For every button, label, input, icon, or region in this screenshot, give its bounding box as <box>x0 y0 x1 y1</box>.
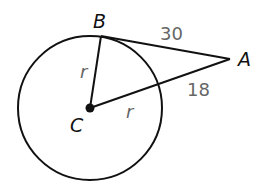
center-point <box>86 104 95 113</box>
label-radius-cb: r <box>80 61 89 82</box>
label-radius-cd: r <box>126 101 135 122</box>
label-ba-length: 30 <box>160 23 183 44</box>
label-c: C <box>70 114 84 136</box>
circle-tangent-diagram: B A C r r 30 18 <box>0 0 267 192</box>
label-b: B <box>93 10 106 32</box>
label-a: A <box>236 48 251 70</box>
radius-cb <box>90 36 101 108</box>
label-da-length: 18 <box>187 79 210 100</box>
